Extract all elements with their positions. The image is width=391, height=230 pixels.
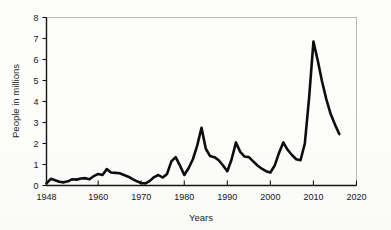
chart-figure: 012345678 194819601970198019902000201020…	[0, 0, 391, 230]
y-tick-label: 5	[33, 76, 38, 86]
y-tick-label: 6	[33, 55, 38, 65]
x-tick-labels: 19481960197019801990200020102020	[36, 192, 366, 202]
y-axis-title: People in millions	[10, 64, 21, 138]
x-tick-label: 1970	[131, 192, 151, 202]
x-axis-title: Years	[189, 212, 213, 223]
x-tick-marks	[47, 181, 357, 186]
x-tick-label: 2010	[303, 192, 323, 202]
x-tick-label: 2020	[346, 192, 366, 202]
y-tick-labels: 012345678	[33, 13, 38, 191]
x-tick-label: 1960	[88, 192, 108, 202]
y-tick-label: 4	[33, 97, 38, 107]
x-tick-label: 1980	[174, 192, 194, 202]
line-chart: 012345678 194819601970198019902000201020…	[0, 0, 391, 230]
y-tick-label: 0	[33, 181, 38, 191]
x-tick-label: 1948	[36, 192, 56, 202]
x-tick-label: 2000	[260, 192, 280, 202]
y-tick-label: 2	[33, 139, 38, 149]
y-tick-label: 1	[33, 160, 38, 170]
data-series-line	[47, 42, 340, 184]
x-tick-label: 1990	[217, 192, 237, 202]
y-tick-label: 8	[33, 13, 38, 23]
y-tick-label: 3	[33, 118, 38, 128]
y-tick-label: 7	[33, 34, 38, 44]
